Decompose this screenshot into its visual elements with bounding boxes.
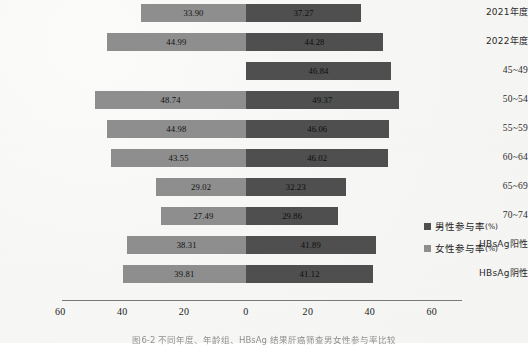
legend-label-female: 女性参与率: [435, 244, 485, 254]
category-label-3: 50~54: [442, 95, 528, 105]
category-label-5: 60~64: [442, 153, 528, 163]
x-tick-4: 20: [293, 306, 323, 317]
bar-value-male-6: 32.23: [246, 178, 346, 196]
x-axis-line: [62, 300, 462, 301]
legend-swatch-female-icon: [424, 245, 431, 252]
legend-swatch-male-icon: [424, 223, 431, 230]
legend-label-male: 男性参与率: [435, 222, 485, 232]
bar-value-male-2: 46.84: [246, 62, 391, 80]
bar-value-female-3: 48.74: [95, 91, 246, 109]
category-label-9: HBsAg阴性: [442, 269, 528, 278]
category-label-2: 45~49: [442, 66, 528, 76]
x-tick-1: 40: [107, 306, 137, 317]
legend-item-female: 女性参与率(%): [424, 244, 498, 254]
x-tick-5: 40: [355, 306, 385, 317]
bar-value-male-7: 29.86: [246, 207, 338, 225]
bar-value-male-0: 37.27: [246, 4, 361, 22]
bar-value-female-9: 39.81: [123, 265, 246, 283]
category-label-0: 2021年度: [442, 8, 528, 17]
category-label-6: 65~69: [442, 182, 528, 192]
legend-item-male: 男性参与率(%): [424, 222, 498, 232]
bar-value-male-3: 49.37: [246, 91, 399, 109]
category-label-1: 2022年度: [442, 37, 528, 46]
x-tick-6: 60: [417, 306, 447, 317]
bar-value-female-7: 27.49: [161, 207, 246, 225]
legend-unit-male: (%): [485, 223, 498, 231]
x-tick-2: 20: [169, 306, 199, 317]
category-label-4: 55~59: [442, 124, 528, 134]
bar-value-female-6: 29.02: [156, 178, 246, 196]
category-label-7: 70~74: [442, 211, 528, 221]
bar-value-male-9: 41.12: [246, 265, 373, 283]
bar-value-female-1: 44.99: [107, 33, 246, 51]
x-tick-0: 60: [45, 306, 75, 317]
bar-value-female-0: 33.90: [141, 4, 246, 22]
bar-value-female-8: 38.31: [127, 236, 246, 254]
figure-caption: 图6-2 不同年度、年龄组、HBsAg 结果肝癌筛查男女性参与率比较: [0, 333, 528, 345]
bar-value-female-5: 43.55: [111, 149, 246, 167]
x-tick-3: 0: [231, 306, 261, 317]
legend-unit-female: (%): [485, 245, 498, 253]
bar-value-male-5: 46.02: [246, 149, 388, 167]
bar-value-male-1: 44.28: [246, 33, 383, 51]
bar-value-male-8: 41.89: [246, 236, 376, 254]
bar-value-male-4: 46.06: [246, 120, 389, 138]
chart-legend: 男性参与率(%) 女性参与率(%): [424, 222, 498, 265]
bar-value-female-4: 44.98: [107, 120, 246, 138]
